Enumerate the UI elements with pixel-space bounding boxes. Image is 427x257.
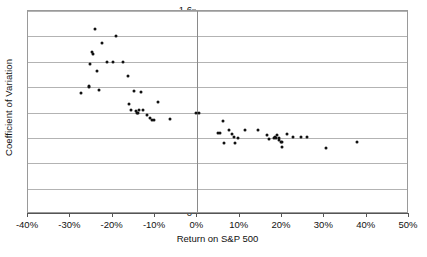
data-point	[138, 108, 141, 111]
data-point	[305, 135, 308, 138]
x-tick-label: -40%	[16, 219, 38, 230]
data-point	[114, 35, 117, 38]
data-point	[93, 27, 96, 30]
data-point	[101, 41, 104, 44]
data-point	[236, 136, 239, 139]
data-point	[79, 92, 82, 95]
data-point	[300, 135, 303, 138]
x-tick-mark	[323, 213, 324, 217]
x-tick-label: 50%	[398, 219, 417, 230]
data-point	[223, 141, 226, 144]
data-point	[152, 119, 155, 122]
data-point	[292, 135, 295, 138]
x-tick-label: -30%	[58, 219, 80, 230]
scatter-chart: Coefficient of Variation 00.20.40.60.811…	[0, 0, 427, 257]
x-tick-label: -10%	[143, 219, 165, 230]
x-tick-mark	[196, 213, 197, 217]
data-point	[128, 102, 131, 105]
gridline	[28, 189, 407, 190]
x-tick-mark	[239, 213, 240, 217]
y-axis-title-text: Coefficient of Variation	[4, 59, 15, 156]
data-point	[105, 60, 108, 63]
data-point	[97, 88, 100, 91]
x-tick-mark	[408, 213, 409, 217]
x-axis-tick-labels: -40%-30%-20%-10%0%10%20%30%40%50%	[27, 213, 408, 235]
x-axis-title: Return on S&P 500	[27, 233, 408, 244]
data-point	[286, 133, 289, 136]
gridline	[28, 11, 407, 12]
data-point	[88, 84, 91, 87]
plot-area	[27, 10, 408, 213]
x-tick-mark	[154, 213, 155, 217]
data-point	[281, 140, 284, 143]
data-point	[142, 108, 145, 111]
data-point	[325, 147, 328, 150]
data-point	[232, 135, 235, 138]
y-axis-title: Coefficient of Variation	[0, 0, 18, 215]
data-point	[197, 111, 200, 114]
data-point	[91, 50, 94, 53]
gridline	[28, 138, 407, 139]
data-point	[129, 108, 132, 111]
data-point	[218, 131, 221, 134]
x-tick-label: 40%	[356, 219, 375, 230]
data-point	[168, 117, 171, 120]
x-tick-mark	[112, 213, 113, 217]
data-point	[140, 91, 143, 94]
x-tick-mark	[27, 213, 28, 217]
data-point	[233, 141, 236, 144]
data-point	[132, 89, 135, 92]
data-point	[266, 134, 269, 137]
data-point	[267, 138, 270, 141]
data-point	[157, 101, 160, 104]
data-point	[126, 74, 129, 77]
x-tick-label: 30%	[314, 219, 333, 230]
data-point	[243, 129, 246, 132]
x-tick-label: 20%	[271, 219, 290, 230]
data-point	[280, 145, 283, 148]
data-point	[121, 60, 124, 63]
data-point	[88, 63, 91, 66]
gridline	[28, 36, 407, 37]
x-tick-mark	[366, 213, 367, 217]
gridline	[28, 87, 407, 88]
data-point	[356, 140, 359, 143]
gridline	[28, 113, 407, 114]
data-point	[96, 69, 99, 72]
gridline	[28, 163, 407, 164]
x-tick-label: 10%	[229, 219, 248, 230]
data-point	[256, 129, 259, 132]
data-point	[227, 129, 230, 132]
x-tick-mark	[281, 213, 282, 217]
data-point	[221, 120, 224, 123]
data-point	[112, 60, 115, 63]
x-tick-label: -20%	[101, 219, 123, 230]
gridline	[28, 62, 407, 63]
x-tick-label: 0%	[189, 219, 203, 230]
x-tick-mark	[69, 213, 70, 217]
